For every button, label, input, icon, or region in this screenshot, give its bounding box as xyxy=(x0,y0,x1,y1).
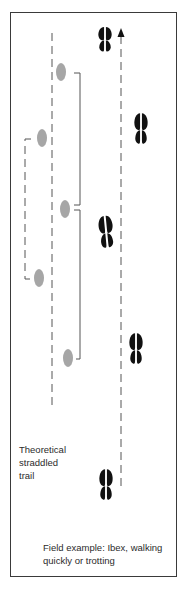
track-diagram xyxy=(0,0,189,598)
field-example-caption: Field example: Ibex, walking quickly or … xyxy=(43,541,162,567)
theoretical-prints xyxy=(34,63,73,367)
field-print-2 xyxy=(134,113,147,143)
arrow-up-icon xyxy=(118,28,125,37)
right-stride-bracket-lower xyxy=(74,210,80,359)
field-prints xyxy=(98,27,148,500)
field-print-5 xyxy=(99,469,112,499)
theoretical-print-1 xyxy=(56,63,66,81)
left-stride-bracket xyxy=(25,139,31,279)
theoretical-print-2 xyxy=(37,129,47,147)
theoretical-print-5 xyxy=(63,349,73,367)
field-print-4 xyxy=(129,333,142,363)
field-print-3 xyxy=(98,215,115,248)
theoretical-print-4 xyxy=(34,269,44,287)
theoretical-trail-caption: Theoretical straddled trail xyxy=(19,443,66,482)
right-stride-bracket-upper xyxy=(74,73,80,205)
theoretical-print-3 xyxy=(60,200,70,218)
field-print-1 xyxy=(98,27,111,52)
